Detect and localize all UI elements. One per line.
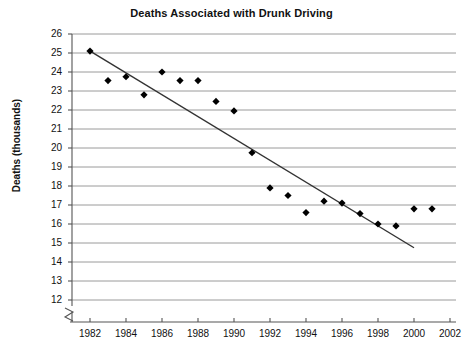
x-tick-marks — [90, 318, 450, 322]
data-point — [176, 77, 183, 84]
x-tick-label: 1988 — [180, 328, 216, 339]
data-point — [302, 209, 309, 216]
x-tick-label: 1996 — [324, 328, 360, 339]
y-tick-label: 17 — [40, 199, 62, 210]
data-point — [212, 98, 219, 105]
y-tick-label: 25 — [40, 47, 62, 58]
x-tick-label: 1992 — [252, 328, 288, 339]
data-point — [428, 205, 435, 212]
y-tick-label: 14 — [40, 256, 62, 267]
data-point — [140, 91, 147, 98]
data-point — [320, 198, 327, 205]
data-point — [230, 107, 237, 114]
x-tick-label: 2000 — [396, 328, 432, 339]
data-point — [284, 192, 291, 199]
x-tick-label: 1990 — [216, 328, 252, 339]
y-tick-label: 15 — [40, 237, 62, 248]
y-tick-label: 26 — [40, 28, 62, 39]
x-tick-label: 2002 — [432, 328, 463, 339]
x-tick-label: 1986 — [144, 328, 180, 339]
y-tick-label: 24 — [40, 66, 62, 77]
x-tick-label: 1982 — [72, 328, 108, 339]
y-tick-label: 23 — [40, 85, 62, 96]
x-axis-line — [70, 312, 456, 322]
data-point — [410, 205, 417, 212]
data-point — [266, 184, 273, 191]
y-tick-label: 21 — [40, 123, 62, 134]
data-point — [86, 48, 93, 55]
gridlines — [72, 34, 456, 300]
x-tick-label: 1994 — [288, 328, 324, 339]
y-tick-label: 12 — [40, 294, 62, 305]
data-point — [194, 77, 201, 84]
x-tick-label: 1984 — [108, 328, 144, 339]
chart-container: Deaths Associated with Drunk Driving Dea… — [0, 0, 463, 361]
plot-area — [0, 0, 463, 361]
x-tick-label: 1998 — [360, 328, 396, 339]
data-point — [392, 222, 399, 229]
y-tick-label: 18 — [40, 180, 62, 191]
y-tick-label: 19 — [40, 161, 62, 172]
data-point — [104, 77, 111, 84]
trendline — [92, 52, 414, 248]
data-point — [374, 220, 381, 227]
y-tick-marks — [68, 34, 72, 300]
data-points — [86, 48, 435, 230]
y-tick-label: 22 — [40, 104, 62, 115]
data-point — [158, 68, 165, 75]
y-tick-label: 16 — [40, 218, 62, 229]
y-tick-label: 20 — [40, 142, 62, 153]
y-tick-label: 13 — [40, 275, 62, 286]
